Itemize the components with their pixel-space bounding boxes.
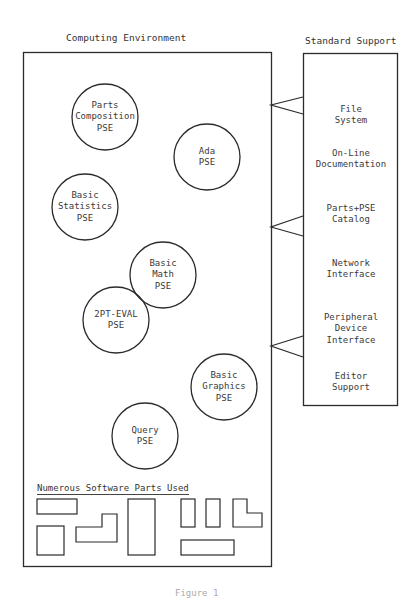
support-item-line: Interface [304,335,398,346]
pse-circle-label: BasicMathPSE [149,258,176,292]
support-item-line: Support [304,382,398,393]
pse-label-line: Parts [75,100,135,111]
pse-label-line: Query [131,425,158,436]
support-item-line: System [304,115,398,126]
pse-label-line: PSE [58,213,112,224]
part-shape-8 [181,540,234,555]
pse-label-line: Statistics [58,201,112,212]
pse-label-line: PSE [199,157,215,168]
pse-label-line: Basic [202,370,245,381]
support-item-line: Peripheral [304,312,398,323]
pse-label-line: Basic [58,190,112,201]
part-shape-5 [181,499,195,527]
connector-3 [271,336,303,357]
parts-section-heading: Numerous Software Parts Used [37,483,189,495]
support-item-line: Documentation [304,159,398,170]
connector-1 [271,97,303,114]
pse-label-line: 2PT-EVAL [94,309,137,320]
pse-circle-label: 2PT-EVALPSE [94,309,137,332]
part-shape-3-l [76,514,117,542]
part-shape-7-l [233,499,262,527]
support-item-line: Network [304,258,398,269]
support-item-line: On-Line [304,148,398,159]
support-item: Parts+PSECatalog [304,203,398,226]
support-item-line: Editor [304,371,398,382]
support-item: NetworkInterface [304,258,398,281]
pse-circle-label: PartsCompositionPSE [75,100,135,134]
support-item: FileSystem [304,104,398,127]
pse-label-line: Composition [75,111,135,122]
part-shape-6 [206,499,220,527]
support-item-line: Catalog [304,214,398,225]
computing-environment-title: Computing Environment [66,32,186,43]
pse-label-line: PSE [75,123,135,134]
support-item: On-LineDocumentation [304,148,398,171]
pse-label-line: Math [149,269,176,280]
part-shape-4 [128,499,155,555]
pse-circle-label: QueryPSE [131,425,158,448]
part-shape-1 [37,499,77,514]
pse-label-line: Ada [199,146,215,157]
software-parts-shapes [37,499,262,555]
pse-label-line: PSE [149,281,176,292]
pse-label-line: PSE [131,436,158,447]
part-shape-2 [37,526,64,555]
connector-2 [271,216,303,236]
support-item: EditorSupport [304,371,398,394]
pse-circle-label: AdaPSE [199,146,215,169]
standard-support-title: Standard Support [305,35,397,46]
support-item-line: Interface [304,269,398,280]
pse-label-line: PSE [202,393,245,404]
pse-circle-label: BasicGraphicsPSE [202,370,245,404]
pse-circle-label: BasicStatisticsPSE [58,190,112,224]
support-item-line: Parts+PSE [304,203,398,214]
pse-label-line: Graphics [202,381,245,392]
pse-label-line: Basic [149,258,176,269]
support-item: PeripheralDeviceInterface [304,312,398,346]
figure-caption: Figure 1 [175,588,218,598]
support-item-line: File [304,104,398,115]
pse-label-line: PSE [94,320,137,331]
support-item-line: Device [304,323,398,334]
